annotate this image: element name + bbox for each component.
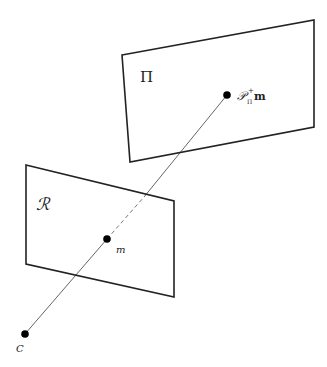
plane-r xyxy=(26,165,174,297)
label-c: C xyxy=(16,343,24,354)
svg-text:m: m xyxy=(254,90,266,103)
label-projection: 𝒫 + Π m xyxy=(237,87,266,105)
diagram-canvas: Π ℛ C m 𝒫 + Π m xyxy=(0,0,327,367)
point-c xyxy=(21,330,29,338)
label-r: ℛ xyxy=(36,194,51,214)
label-pi: Π xyxy=(140,68,153,86)
label-m: m xyxy=(116,244,125,255)
ray-c-to-m xyxy=(25,239,107,334)
svg-text:Π: Π xyxy=(247,98,252,105)
plane-pi xyxy=(122,20,314,162)
point-p xyxy=(223,91,231,99)
ray-hidden-dashed xyxy=(107,197,144,239)
point-m xyxy=(103,235,111,243)
